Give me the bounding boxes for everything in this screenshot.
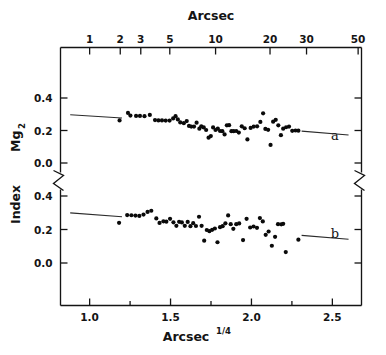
y-tick-label: 0.0: [34, 157, 53, 169]
data-points-panel-b: [117, 209, 301, 255]
data-point: [174, 224, 178, 228]
series-label-a: a: [331, 128, 339, 143]
data-point: [266, 128, 270, 132]
data-point: [274, 118, 278, 122]
data-point: [281, 222, 285, 226]
axis-break-markers: [54, 171, 365, 191]
data-point: [148, 113, 152, 117]
data-point: [261, 111, 265, 115]
data-point: [209, 134, 213, 138]
data-point: [171, 220, 175, 224]
x-axis-bottom-ticks: [90, 299, 333, 306]
top-tick-label: 3: [137, 33, 144, 45]
data-point: [202, 239, 206, 243]
data-point: [157, 221, 161, 225]
data-point: [227, 123, 231, 127]
bottom-axis-title-base: Arcsec: [163, 329, 210, 344]
data-point: [134, 114, 138, 118]
data-point: [273, 235, 277, 239]
x-axis-top-ticks: [90, 48, 358, 55]
data-point: [276, 123, 280, 127]
top-tick-label: 20: [263, 33, 278, 45]
x-tick-label: 2.0: [242, 311, 261, 323]
bottom-axis-title: Arcsec 1/4: [163, 326, 231, 344]
data-point: [204, 128, 208, 132]
top-tick-label: 10: [208, 33, 223, 45]
data-point: [129, 213, 133, 217]
data-point: [154, 216, 158, 220]
fit-line: [302, 131, 349, 135]
data-point: [287, 125, 291, 129]
data-point: [142, 114, 146, 118]
data-point: [197, 215, 201, 219]
data-point: [168, 217, 172, 221]
data-point: [192, 125, 196, 129]
data-point: [255, 226, 259, 230]
data-point: [255, 124, 259, 128]
fit-line: [70, 115, 122, 118]
axis-break-left-icon: [54, 171, 64, 191]
data-point: [268, 143, 272, 147]
mg2-index-scatter-chart: 1.01.52.02.5 123510203050 0.00.20.40.00.…: [0, 0, 386, 355]
y-axis-title-subscript: 2: [17, 123, 27, 129]
data-point: [164, 220, 168, 224]
data-point: [149, 209, 153, 213]
fit-line: [70, 213, 122, 217]
data-point: [138, 114, 142, 118]
data-point: [213, 226, 217, 230]
data-point: [167, 118, 171, 122]
data-point: [160, 118, 164, 122]
axis-break-right-icon: [355, 171, 365, 191]
data-point: [186, 220, 190, 224]
x-axis-top-tick-labels: 123510203050: [86, 33, 365, 45]
data-points-panel-a: [117, 111, 300, 147]
data-point: [261, 219, 265, 223]
top-tick-label: 30: [299, 33, 314, 45]
data-point: [117, 118, 121, 122]
y-axis-title-base: Mg: [8, 131, 23, 152]
data-point: [237, 131, 241, 135]
data-point: [284, 250, 288, 254]
data-point: [141, 212, 145, 216]
data-point: [185, 119, 189, 123]
data-point: [241, 238, 245, 242]
data-point: [180, 220, 184, 224]
data-point: [164, 118, 168, 122]
data-point: [258, 216, 262, 220]
y-tick-label: 0.2: [34, 125, 53, 137]
data-point: [194, 224, 198, 228]
data-point: [117, 221, 121, 225]
top-tick-label: 50: [351, 33, 366, 45]
data-point: [231, 227, 235, 231]
data-point: [128, 113, 132, 117]
data-point: [145, 210, 149, 214]
x-axis-bottom-tick-labels: 1.01.52.02.5: [80, 311, 341, 323]
data-point: [178, 120, 182, 124]
data-point: [125, 213, 129, 217]
data-point: [215, 240, 219, 244]
plot-frame: [61, 48, 362, 306]
y-axis-tick-labels: 0.00.20.40.00.20.4: [34, 92, 53, 269]
y-tick-label: 0.4: [34, 190, 53, 202]
data-point: [222, 132, 226, 136]
data-point: [267, 229, 271, 233]
data-point: [270, 244, 274, 248]
data-point: [226, 213, 230, 217]
y-axis-ticks: [61, 98, 362, 263]
data-point: [245, 217, 249, 221]
data-point: [183, 224, 187, 228]
data-point: [264, 233, 268, 237]
top-tick-label: 2: [117, 33, 124, 45]
y-tick-label: 0.0: [34, 257, 53, 269]
fit-line: [302, 235, 349, 239]
y-tick-label: 0.2: [34, 224, 53, 236]
series-label-b: b: [331, 226, 339, 241]
y-axis-title: Mg 2 Index: [8, 123, 27, 224]
y-axis-title-tail: Index: [8, 185, 23, 224]
data-point: [223, 221, 227, 225]
figure-root: 1.01.52.02.5 123510203050 0.00.20.40.00.…: [0, 0, 386, 355]
data-point: [137, 214, 141, 218]
data-point: [237, 221, 241, 225]
data-point: [200, 224, 204, 228]
top-tick-label: 1: [86, 33, 93, 45]
